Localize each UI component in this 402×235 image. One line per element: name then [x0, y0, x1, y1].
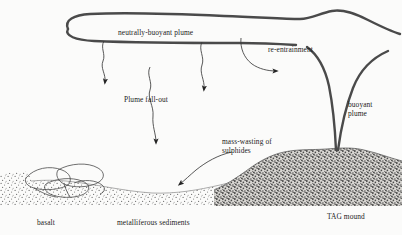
plume-diagram: neutrally-buoyant plume re-entrainment P… [0, 0, 402, 235]
diagram-canvas [0, 0, 402, 235]
label-buoyant-plume: buoyant plume [348, 100, 373, 118]
label-buoyant-plume-line2: plume [348, 109, 367, 118]
label-metalliferous-sediments: metalliferous sediments [117, 218, 190, 227]
plume-fallout-arrows [102, 41, 204, 142]
label-tag-mound: TAG mound [327, 212, 365, 221]
label-buoyant-plume-line1: buoyant [348, 100, 373, 109]
label-mass-wasting-line1: mass-wasting of [222, 137, 272, 146]
label-basalt: basalt [37, 218, 55, 227]
label-mass-wasting-of-sulphides: mass-wasting of sulphides [222, 137, 272, 155]
label-re-entrainment: re-entrainment [268, 45, 313, 54]
label-plume-fall-out: Plume fall-out [124, 95, 168, 104]
mass-wasting-arrow [180, 152, 232, 184]
tag-sulphide-mound [214, 148, 402, 206]
label-neutrally-buoyant-plume: neutrally-buoyant plume [118, 28, 193, 37]
label-mass-wasting-line2: sulphides [222, 146, 251, 155]
buoyant-plume-stem [307, 47, 388, 150]
